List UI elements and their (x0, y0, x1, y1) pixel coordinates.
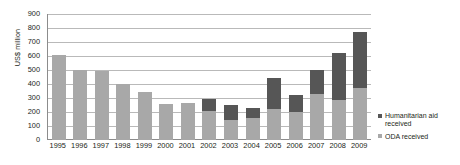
x-axis-tick-label: 1999 (133, 142, 155, 149)
bar-segment-humanitarian-aid[interactable] (289, 95, 303, 112)
bar-group[interactable] (95, 14, 109, 140)
bar-segment-humanitarian-aid[interactable] (224, 105, 238, 119)
bar-group[interactable] (138, 14, 152, 140)
y-axis-tick-label: 0 (36, 136, 40, 143)
bar-group[interactable] (246, 14, 260, 140)
y-axis-tick-label: 400 (28, 80, 40, 87)
legend-entry[interactable]: Humanitarian aid received (378, 112, 460, 129)
legend-swatch-icon (378, 134, 382, 138)
bar-segment-oda[interactable] (332, 100, 346, 140)
bar-group[interactable] (267, 14, 281, 140)
bar-group[interactable] (224, 14, 238, 140)
bar-segment-oda[interactable] (267, 109, 281, 140)
bar-group[interactable] (181, 14, 195, 140)
x-axis-tick-label: 2003 (219, 142, 241, 149)
bar-group[interactable] (289, 14, 303, 140)
bar-group[interactable] (202, 14, 216, 140)
bar-group[interactable] (52, 14, 66, 140)
y-axis-tick-label: 900 (28, 10, 40, 17)
bar-segment-oda[interactable] (73, 70, 87, 140)
x-axis-tick-label: 2002 (198, 142, 220, 149)
chart-legend: Humanitarian aid receivedODA received (378, 112, 460, 145)
legend-entry[interactable]: ODA received (378, 133, 460, 141)
x-axis-tick-label: 1996 (69, 142, 91, 149)
legend-label: Humanitarian aid received (385, 112, 460, 129)
y-axis-tick-labels: 9008007006005004003002001000 (0, 14, 43, 140)
bar-segment-oda[interactable] (95, 71, 109, 140)
y-axis-tick-label: 300 (28, 94, 40, 101)
x-axis-tick-labels: 1995199619971998199920002001200220032004… (47, 142, 370, 156)
bar-segment-humanitarian-aid[interactable] (246, 108, 260, 118)
bar-segment-humanitarian-aid[interactable] (310, 70, 324, 94)
x-axis-tick-label: 1995 (47, 142, 69, 149)
x-axis-tick-label: 2007 (305, 142, 327, 149)
bar-segment-oda[interactable] (224, 120, 238, 140)
x-axis-tick-label: 2008 (327, 142, 349, 149)
y-axis-tick-label: 200 (28, 108, 40, 115)
bar-group[interactable] (310, 14, 324, 140)
x-axis-tick-label: 2000 (155, 142, 177, 149)
bar-group[interactable] (332, 14, 346, 140)
bar-segment-oda[interactable] (353, 88, 367, 141)
x-axis-tick-label: 2005 (262, 142, 284, 149)
bar-segment-oda[interactable] (116, 84, 130, 140)
x-axis-tick-label: 2004 (241, 142, 263, 149)
bar-segment-oda[interactable] (138, 92, 152, 140)
legend-swatch-icon (378, 114, 382, 118)
y-axis-tick-label: 700 (28, 38, 40, 45)
bar-group[interactable] (116, 14, 130, 140)
chart-container: US$ million 9008007006005004003002001000… (0, 0, 460, 165)
x-axis-tick-label: 2006 (284, 142, 306, 149)
y-axis-tick-label: 100 (28, 122, 40, 129)
bar-segment-oda[interactable] (246, 118, 260, 140)
y-axis-tick-label: 800 (28, 24, 40, 31)
x-axis-tick-label: 2001 (176, 142, 198, 149)
bar-series-group (48, 14, 371, 140)
bar-segment-humanitarian-aid[interactable] (353, 32, 367, 88)
bar-segment-humanitarian-aid[interactable] (267, 78, 281, 109)
bar-group[interactable] (73, 14, 87, 140)
x-axis-tick-label: 1997 (90, 142, 112, 149)
bar-segment-oda[interactable] (52, 55, 66, 140)
bar-segment-oda[interactable] (159, 104, 173, 140)
bar-segment-humanitarian-aid[interactable] (332, 53, 346, 100)
bar-segment-oda[interactable] (310, 94, 324, 140)
y-axis-tick-label: 500 (28, 66, 40, 73)
legend-label: ODA received (385, 133, 428, 141)
x-axis-tick-label: 2009 (348, 142, 370, 149)
bar-group[interactable] (159, 14, 173, 140)
bar-segment-oda[interactable] (289, 112, 303, 140)
bar-segment-oda[interactable] (202, 111, 216, 140)
y-axis-tick-label: 600 (28, 52, 40, 59)
bar-group[interactable] (353, 14, 367, 140)
x-axis-tick-label: 1998 (112, 142, 134, 149)
bar-segment-humanitarian-aid[interactable] (202, 99, 216, 112)
bar-segment-oda[interactable] (181, 103, 195, 140)
plot-area (47, 14, 371, 140)
